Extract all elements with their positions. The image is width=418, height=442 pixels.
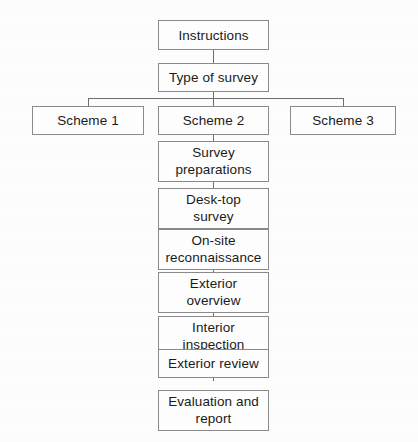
node-instructions[interactable]: Instructions [158, 20, 269, 50]
node-scheme-1[interactable]: Scheme 1 [32, 106, 144, 135]
node-type-of-survey[interactable]: Type of survey [158, 63, 269, 92]
node-exterior-review[interactable]: Exterior review [158, 349, 269, 378]
node-survey-preparations[interactable]: Survey preparations [158, 141, 269, 182]
node-on-site-reconnaissance[interactable]: On-site reconnaissance [158, 229, 269, 270]
node-desk-top-survey[interactable]: Desk-top survey [158, 188, 269, 229]
node-scheme-3[interactable]: Scheme 3 [290, 106, 396, 135]
flowchart-canvas: InstructionsType of surveyScheme 1Scheme… [0, 0, 418, 442]
node-exterior-overview[interactable]: Exterior overview [158, 272, 269, 313]
connector-bus-to-scheme-1 [88, 98, 89, 106]
connector-instructions-to-type [213, 50, 214, 63]
node-scheme-2[interactable]: Scheme 2 [158, 106, 269, 135]
connector-scheme-branch-bus [88, 98, 344, 99]
connector-bus-to-scheme-3 [343, 98, 344, 106]
connector-bus-to-scheme-2 [213, 98, 214, 106]
node-evaluation-and-report[interactable]: Evaluation and report [158, 390, 269, 431]
